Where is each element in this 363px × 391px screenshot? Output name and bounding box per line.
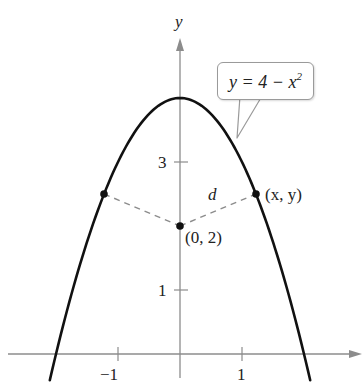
callout-equation: y = 4 − x2 [229,70,302,93]
point-xy-label: (x, y) [265,186,302,203]
point-center-label: (0, 2) [185,229,222,246]
equation-callout: y = 4 − x2 [217,62,314,100]
x-tick-label-neg1: −1 [100,366,118,383]
point-xy [252,190,260,198]
dashed-distance-left [104,194,180,226]
x-axis-arrow-icon [349,350,362,358]
y-axis-arrow-icon [176,38,184,51]
x-tick-label-pos1: 1 [237,366,246,383]
dashed-distance-right [180,194,256,226]
point-left [100,190,108,198]
distance-label: d [208,186,217,203]
y-axis-label: y [175,13,183,30]
y-tick-label-3: 3 [158,154,167,171]
callout-joint [241,96,261,99]
parabola-figure [0,0,363,391]
point-center [176,222,184,230]
callout-tail [237,96,262,138]
y-tick-label-1: 1 [158,282,167,299]
